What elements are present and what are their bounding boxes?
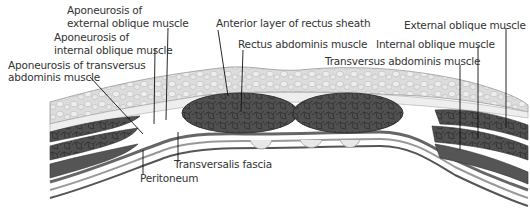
label-transversalis-fascia: Transversalis fascia	[174, 158, 272, 170]
label-external-oblique: External oblique muscle	[404, 19, 526, 31]
label-apon-ext-obl-1: Aponeurosis of	[67, 4, 142, 16]
label-apon-int-obl-2: internal oblique muscle	[54, 44, 173, 56]
anatomy-diagram: Aponeurosis of external oblique muscle A…	[0, 0, 530, 216]
label-apon-int-obl-1: Aponeurosis of	[54, 31, 129, 43]
label-apon-ext-obl-2: external oblique muscle	[67, 17, 189, 29]
label-rectus-abdominis: Rectus abdominis muscle	[238, 38, 367, 50]
label-anterior-rectus-sheath: Anterior layer of rectus sheath	[216, 17, 370, 29]
label-apon-transv-1: Aponeurosis of transversus	[8, 59, 146, 71]
label-apon-transv-2: abdominis muscle	[8, 71, 100, 83]
rectus-right	[293, 93, 403, 133]
label-transversus-abdominis: Transversus abdominis muscle	[325, 55, 480, 67]
label-internal-oblique: Internal oblique muscle	[376, 38, 495, 50]
label-peritoneum: Peritoneum	[140, 172, 198, 184]
rectus-left	[182, 93, 298, 133]
